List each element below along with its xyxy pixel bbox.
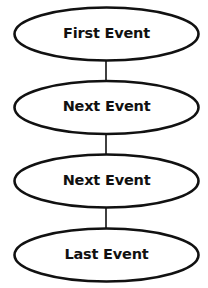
event-node-4-label: Last Event (14, 245, 199, 263)
event-node-1-label: First Event (14, 24, 199, 42)
event-node-3-label: Next Event (14, 171, 199, 189)
event-node-2-label: Next Event (14, 97, 199, 115)
